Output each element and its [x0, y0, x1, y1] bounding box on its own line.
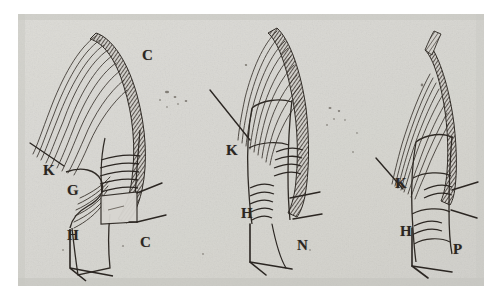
- figure-left-label-h: H: [67, 228, 79, 243]
- figure-left-label-g: G: [67, 183, 79, 198]
- figure-right-label-h: H: [400, 224, 412, 239]
- engraving-plate: C K G H C K H N K H P: [0, 0, 502, 299]
- figure-right-label-p: P: [453, 242, 463, 257]
- figure-right-label-k: K: [395, 176, 407, 191]
- figure-middle-label-n: N: [297, 238, 308, 253]
- figure-middle-label-h: H: [241, 206, 253, 221]
- figure-left-label-c-upper: C: [142, 48, 153, 63]
- figure-middle-label-k: K: [226, 143, 238, 158]
- plate-canvas: [0, 0, 502, 299]
- figure-left-label-k: K: [43, 163, 55, 178]
- figure-left-label-c-lower: C: [140, 235, 151, 250]
